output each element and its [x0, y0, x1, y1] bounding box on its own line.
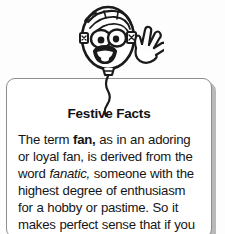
page-root: Festive Facts The term fan, as in an ado… [0, 0, 225, 234]
card-body-text: The term fan, as in an adoring or loyal … [18, 131, 202, 234]
body-segment-1: The term [18, 132, 73, 147]
card-title: Festive Facts [7, 106, 211, 121]
body-italic-fanatic: fanatic, [49, 166, 90, 181]
festive-facts-card: Festive Facts The term fan, as in an ado… [6, 78, 212, 234]
body-bold-fan: fan, [73, 132, 95, 147]
